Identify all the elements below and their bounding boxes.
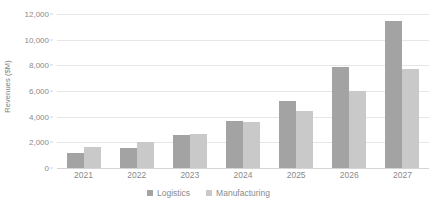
- y-axis-tick-label: 10,000: [25, 35, 49, 44]
- y-axis-tick-mark: [50, 39, 53, 40]
- y-axis-tick-label: 4,000: [29, 112, 49, 121]
- y-axis-tick-label: 12,000: [25, 10, 49, 19]
- y-axis-tick-mark: [50, 14, 53, 15]
- bars-layer: [57, 14, 429, 168]
- legend-item[interactable]: Logistics: [147, 188, 190, 198]
- bar: [243, 122, 260, 168]
- legend-item[interactable]: Manufacturing: [206, 188, 270, 198]
- bar: [190, 134, 207, 168]
- y-axis-tick-mark: [50, 91, 53, 92]
- bar-group: [279, 14, 313, 168]
- gridline: [57, 168, 429, 169]
- y-axis-tick-labels: 02,0004,0006,0008,00010,00012,000: [10, 14, 53, 168]
- legend-swatch-icon: [206, 190, 212, 196]
- legend-label: Logistics: [157, 188, 190, 198]
- bar-group: [385, 14, 419, 168]
- y-axis-tick-mark: [50, 142, 53, 143]
- bar: [173, 135, 190, 168]
- legend-label: Manufacturing: [216, 188, 270, 198]
- x-axis-tick-label: 2022: [127, 170, 146, 180]
- chart-legend: LogisticsManufacturing: [0, 188, 435, 198]
- bar: [137, 142, 154, 168]
- x-axis-tick-label: 2025: [287, 170, 306, 180]
- y-axis-tick-label: 8,000: [29, 61, 49, 70]
- plot-area: [57, 14, 429, 168]
- x-axis-tick-label: 2023: [180, 170, 199, 180]
- bar-group: [332, 14, 366, 168]
- bar-group: [173, 14, 207, 168]
- bar: [279, 101, 296, 168]
- bar: [226, 121, 243, 168]
- x-axis-tick-labels: 2021202220232024202520262027: [57, 170, 429, 184]
- bar: [385, 21, 402, 168]
- bar-group: [67, 14, 101, 168]
- bar: [67, 153, 84, 168]
- bar: [84, 147, 101, 168]
- bar-group: [226, 14, 260, 168]
- x-axis-tick-label: 2021: [74, 170, 93, 180]
- y-axis-tick-mark: [50, 116, 53, 117]
- bar: [120, 148, 137, 168]
- x-axis-tick-label: 2026: [340, 170, 359, 180]
- y-axis-tick-mark: [50, 168, 53, 169]
- legend-swatch-icon: [147, 190, 153, 196]
- y-axis-tick-mark: [50, 65, 53, 66]
- bar: [349, 91, 366, 168]
- y-axis-tick-label: 6,000: [29, 87, 49, 96]
- bar-chart: Revenues ($M) 02,0004,0006,0008,00010,00…: [0, 0, 435, 210]
- bar: [332, 67, 349, 168]
- x-axis-tick-label: 2027: [393, 170, 412, 180]
- x-axis-tick-label: 2024: [234, 170, 253, 180]
- bar: [296, 111, 313, 168]
- y-axis-tick-label: 0: [45, 164, 49, 173]
- bar: [402, 69, 419, 168]
- bar-group: [120, 14, 154, 168]
- y-axis-tick-label: 2,000: [29, 138, 49, 147]
